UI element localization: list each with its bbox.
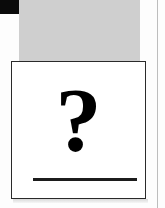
vertical-divider — [157, 0, 158, 208]
corner-block — [0, 0, 19, 14]
question-mark-icon: ? — [12, 74, 145, 166]
card-shadow — [13, 199, 148, 203]
gray-image-panel — [19, 0, 140, 61]
answer-underline — [33, 178, 137, 181]
screenshot-stage: ? — [0, 0, 165, 208]
question-card[interactable]: ? — [11, 61, 146, 199]
